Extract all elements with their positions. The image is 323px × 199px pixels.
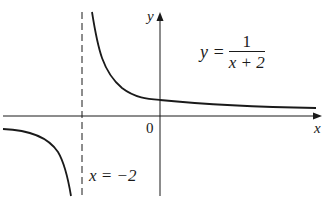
x-axis-label: x: [314, 121, 321, 136]
curve-left-branch: [3, 129, 71, 196]
y-axis-label: y: [147, 9, 154, 24]
equation-lhs: y =: [200, 42, 225, 63]
asymptote-label-text: x = −2: [89, 166, 137, 185]
x-axis-arrow-icon: [313, 113, 322, 120]
equation-denominator: x + 2: [229, 52, 265, 71]
chart-canvas: [0, 0, 323, 199]
origin-label: 0: [146, 121, 154, 136]
asymptote-label: x = −2: [89, 167, 137, 184]
equation-label: y = 1 x + 2: [200, 33, 265, 71]
equation-fraction: 1 x + 2: [229, 33, 265, 71]
y-axis-arrow-icon: [157, 12, 164, 21]
equation-numerator: 1: [240, 33, 253, 51]
